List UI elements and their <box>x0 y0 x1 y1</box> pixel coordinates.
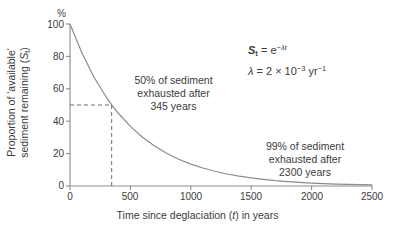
exhaustion-annotation-line1: 99% of sediment <box>240 140 370 153</box>
equation-line2-unit-exponent: −1 <box>318 64 327 73</box>
equation-line-2: λ = 2 × 10−3 yr−1 <box>248 61 326 79</box>
x-axis-title-pre: Time since deglaciation ( <box>117 209 233 221</box>
x-tick-label-1500: 1500 <box>231 191 271 202</box>
decay-equation: St = e−λt λ = 2 × 10−3 yr−1 <box>248 40 326 79</box>
equation-line1-exponent: −λt <box>277 43 287 52</box>
half-life-annotation-line1: 50% of sediment <box>116 74 231 87</box>
y-tick-label-100: 100 <box>38 19 64 30</box>
x-tick-label-500: 500 <box>110 191 150 202</box>
y-axis-unit-label: % <box>57 8 66 19</box>
equation-lambda-symbol: λ <box>248 65 253 77</box>
equation-line2-unit: yr <box>308 65 317 77</box>
x-axis-title-post: ) in years <box>235 209 278 221</box>
equation-exp-t: t <box>285 43 287 52</box>
exhaustion-annotation-line2: exhausted after <box>240 153 370 166</box>
y-axis-title-symbol: S <box>18 53 30 60</box>
x-tick-label-2000: 2000 <box>292 191 332 202</box>
y-axis-title-line1: Proportion of 'available' <box>5 18 18 188</box>
half-life-annotation-line3: 345 years <box>116 100 231 113</box>
y-tick-label-20: 20 <box>38 148 64 159</box>
x-tick-label-1000: 1000 <box>171 191 211 202</box>
x-axis-ticks <box>70 186 372 190</box>
y-tick-label-0: 0 <box>38 180 64 191</box>
y-axis-title-line2-post: ) <box>18 47 30 51</box>
y-axis-title-line2: sediment remaining (St) <box>18 18 34 188</box>
y-axis-title-subscript: t <box>23 51 32 53</box>
y-tick-label-60: 60 <box>38 83 64 94</box>
equation-line2-exponent: −3 <box>297 64 306 73</box>
y-axis-ticks <box>66 24 70 186</box>
x-tick-label-2500: 2500 <box>352 191 392 202</box>
equation-line-1: St = e−λt <box>248 40 326 61</box>
equation-st-subscript: t <box>255 49 258 58</box>
y-tick-label-80: 80 <box>38 51 64 62</box>
half-life-annotation: 50% of sediment exhausted after 345 year… <box>116 74 231 113</box>
y-axis-title: Proportion of 'available' sediment remai… <box>5 18 34 188</box>
x-axis-title: Time since deglaciation (t) in years <box>0 209 395 221</box>
exhaustion-annotation-line3: 2300 years <box>240 166 370 179</box>
y-axis-title-line2-pre: sediment remaining ( <box>18 60 30 158</box>
equation-line1-eq: = e <box>261 44 277 56</box>
x-tick-label-0: 0 <box>50 191 90 202</box>
half-life-annotation-line2: exhausted after <box>116 87 231 100</box>
equation-line2-value: = 2 × 10 <box>256 65 296 77</box>
y-tick-label-40: 40 <box>38 116 64 127</box>
exhaustion-annotation: 99% of sediment exhausted after 2300 yea… <box>240 140 370 179</box>
